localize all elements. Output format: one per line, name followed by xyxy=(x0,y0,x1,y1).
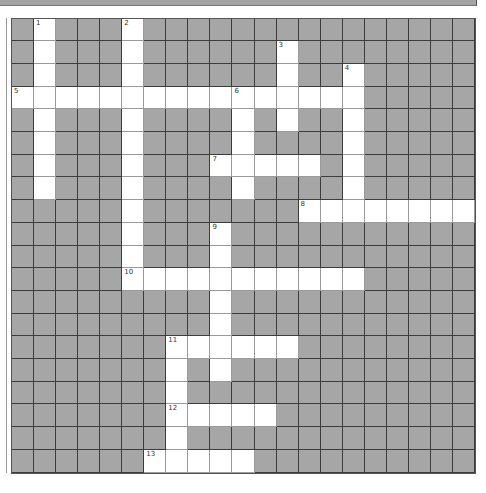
crossword-cell[interactable] xyxy=(144,87,166,110)
block-cell xyxy=(78,109,100,132)
crossword-cell[interactable] xyxy=(188,87,210,110)
crossword-cell[interactable] xyxy=(210,246,232,269)
crossword-cell[interactable] xyxy=(78,87,100,110)
block-cell xyxy=(56,336,78,359)
crossword-cell[interactable] xyxy=(210,359,232,382)
crossword-cell[interactable]: 11 xyxy=(166,336,188,359)
crossword-cell[interactable] xyxy=(144,268,166,291)
crossword-cell[interactable] xyxy=(277,155,299,178)
crossword-cell[interactable] xyxy=(453,200,475,223)
crossword-cell[interactable] xyxy=(34,109,56,132)
crossword-cell[interactable] xyxy=(166,268,188,291)
crossword-cell[interactable] xyxy=(122,223,144,246)
crossword-cell[interactable]: 13 xyxy=(144,450,166,473)
block-cell xyxy=(188,382,210,405)
crossword-cell[interactable] xyxy=(210,268,232,291)
crossword-cell[interactable]: 8 xyxy=(299,200,321,223)
crossword-cell[interactable] xyxy=(409,200,431,223)
crossword-cell[interactable] xyxy=(277,109,299,132)
crossword-cell[interactable] xyxy=(232,450,254,473)
crossword-cell[interactable] xyxy=(232,132,254,155)
crossword-cell[interactable] xyxy=(122,155,144,178)
crossword-cell[interactable] xyxy=(188,336,210,359)
crossword-cell[interactable]: 12 xyxy=(166,404,188,427)
crossword-cell[interactable] xyxy=(210,87,232,110)
crossword-cell[interactable] xyxy=(343,155,365,178)
crossword-cell[interactable]: 6 xyxy=(232,87,254,110)
crossword-cell[interactable] xyxy=(232,109,254,132)
crossword-cell[interactable] xyxy=(255,336,277,359)
crossword-cell[interactable] xyxy=(122,41,144,64)
crossword-cell[interactable]: 1 xyxy=(34,19,56,42)
crossword-cell[interactable] xyxy=(343,200,365,223)
crossword-cell[interactable] xyxy=(431,200,453,223)
crossword-cell[interactable] xyxy=(299,268,321,291)
crossword-cell[interactable] xyxy=(255,404,277,427)
crossword-cell[interactable] xyxy=(210,314,232,337)
crossword-cell[interactable] xyxy=(321,87,343,110)
crossword-cell[interactable] xyxy=(232,268,254,291)
crossword-cell[interactable] xyxy=(122,177,144,200)
crossword-cell[interactable] xyxy=(34,41,56,64)
crossword-cell[interactable] xyxy=(232,336,254,359)
crossword-cell[interactable] xyxy=(34,177,56,200)
crossword-cell[interactable] xyxy=(210,336,232,359)
block-cell xyxy=(166,223,188,246)
crossword-cell[interactable] xyxy=(188,450,210,473)
crossword-cell[interactable] xyxy=(232,155,254,178)
crossword-cell[interactable] xyxy=(277,64,299,87)
crossword-cell[interactable]: 10 xyxy=(122,268,144,291)
crossword-cell[interactable] xyxy=(343,87,365,110)
crossword-cell[interactable]: 7 xyxy=(210,155,232,178)
crossword-cell[interactable]: 3 xyxy=(277,41,299,64)
crossword-cell[interactable] xyxy=(166,382,188,405)
crossword-cell[interactable] xyxy=(166,450,188,473)
crossword-cell[interactable] xyxy=(343,177,365,200)
crossword-cell[interactable] xyxy=(166,87,188,110)
crossword-cell[interactable] xyxy=(210,404,232,427)
block-cell xyxy=(255,109,277,132)
crossword-cell[interactable] xyxy=(122,109,144,132)
crossword-cell[interactable] xyxy=(232,404,254,427)
crossword-cell[interactable] xyxy=(210,450,232,473)
crossword-cell[interactable] xyxy=(321,268,343,291)
crossword-cell[interactable] xyxy=(365,200,387,223)
crossword-cell[interactable] xyxy=(100,87,122,110)
crossword-cell[interactable] xyxy=(122,87,144,110)
crossword-cell[interactable] xyxy=(387,200,409,223)
crossword-cell[interactable] xyxy=(188,404,210,427)
block-cell xyxy=(144,314,166,337)
crossword-cell[interactable] xyxy=(122,200,144,223)
crossword-cell[interactable] xyxy=(343,132,365,155)
crossword-cell[interactable] xyxy=(210,291,232,314)
crossword-cell[interactable] xyxy=(122,64,144,87)
crossword-cell[interactable] xyxy=(255,268,277,291)
block-cell xyxy=(453,359,475,382)
crossword-cell[interactable] xyxy=(299,87,321,110)
crossword-cell[interactable] xyxy=(277,336,299,359)
crossword-cell[interactable] xyxy=(34,155,56,178)
crossword-cell[interactable] xyxy=(299,155,321,178)
crossword-cell[interactable] xyxy=(255,155,277,178)
crossword-cell[interactable] xyxy=(34,132,56,155)
crossword-cell[interactable] xyxy=(255,87,277,110)
crossword-cell[interactable] xyxy=(56,87,78,110)
block-cell xyxy=(299,314,321,337)
crossword-cell[interactable] xyxy=(343,268,365,291)
crossword-cell[interactable] xyxy=(166,359,188,382)
crossword-cell[interactable] xyxy=(277,87,299,110)
crossword-cell[interactable]: 9 xyxy=(210,223,232,246)
crossword-cell[interactable] xyxy=(188,268,210,291)
crossword-cell[interactable] xyxy=(34,87,56,110)
crossword-cell[interactable] xyxy=(321,200,343,223)
crossword-cell[interactable]: 2 xyxy=(122,19,144,42)
crossword-cell[interactable] xyxy=(232,177,254,200)
crossword-cell[interactable] xyxy=(166,427,188,450)
crossword-cell[interactable] xyxy=(122,132,144,155)
crossword-cell[interactable] xyxy=(277,268,299,291)
crossword-cell[interactable] xyxy=(34,64,56,87)
crossword-cell[interactable]: 4 xyxy=(343,64,365,87)
crossword-cell[interactable] xyxy=(343,109,365,132)
crossword-cell[interactable]: 5 xyxy=(12,87,34,110)
crossword-cell[interactable] xyxy=(122,246,144,269)
